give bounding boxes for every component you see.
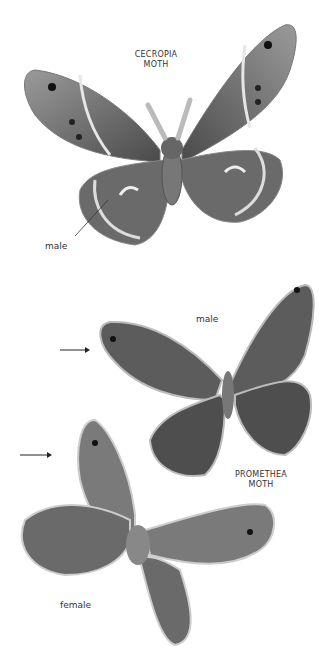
- cecropia-right-forewing: [182, 25, 296, 162]
- cecropia-male-label: male: [45, 241, 67, 251]
- cecropia-right-hindwing: [180, 151, 283, 223]
- promethea-male-left-hindwing: [150, 395, 225, 476]
- promethea-male-label: male: [196, 314, 218, 324]
- cecropia-title-line1: CECROPIA: [122, 50, 190, 60]
- promethea-female-right-forewing: [145, 504, 274, 564]
- promethea-female-label: female: [60, 600, 91, 610]
- cecropia-title-line2: MOTH: [122, 60, 190, 70]
- promethea-female-right-hindwing: [140, 557, 191, 645]
- promethea-title-line1: PROMETHEA: [226, 470, 296, 480]
- promethea-male-left-forewing: [100, 322, 222, 400]
- arrow-head-icon: [85, 347, 90, 353]
- promethea-title: PROMETHEA MOTH: [226, 470, 296, 490]
- moth-illustrations: [0, 0, 336, 664]
- cecropia-title: CECROPIA MOTH: [122, 50, 190, 70]
- promethea-female-moth: [20, 420, 274, 645]
- cecropia-left-forewing: [24, 70, 160, 162]
- promethea-female-left-hindwing: [22, 505, 130, 575]
- arrow-head-icon: [47, 452, 52, 458]
- promethea-title-line2: MOTH: [226, 480, 296, 490]
- promethea-male-right-forewing: [232, 285, 314, 395]
- promethea-male-right-hindwing: [235, 381, 311, 455]
